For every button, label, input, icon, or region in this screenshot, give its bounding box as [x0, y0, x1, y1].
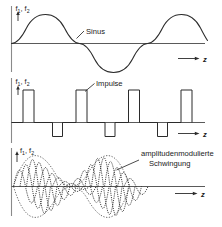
panel-am-z-label: z — [200, 190, 205, 199]
panel-sinus-z-label: z — [202, 55, 207, 64]
am-leader-line — [117, 160, 140, 170]
panel-am: f1, f2 — [12, 146, 214, 217]
panel-sinus-y-label: f1, f2 — [16, 4, 30, 14]
am-label-line1: amplitudenmodulierte — [141, 149, 214, 158]
panel-impulse-y-arrow — [16, 86, 20, 95]
panel-impulse-y-label: f1, f2 — [16, 77, 30, 87]
waveform-figure: f1, f2 Sinus z f1, f2 — [0, 0, 222, 227]
panel-sinus: f1, f2 Sinus z — [12, 4, 208, 73]
sine-leader-line — [77, 31, 85, 39]
pulse-train-curve — [12, 90, 193, 137]
am-label-line2: Schwingung — [149, 159, 190, 168]
panel-impulse-z-arrow — [178, 132, 200, 136]
panel-sinus-z-arrow — [178, 57, 200, 61]
panel-impulse: f1, f2 Impulse z — [12, 77, 208, 143]
panel-impulse-z-label: z — [202, 130, 207, 139]
panel-am-y-label: f1, f2 — [20, 146, 34, 156]
sine-label: Sinus — [86, 27, 105, 36]
impulse-label: Impulse — [96, 79, 123, 88]
panel-am-y-arrow — [15, 151, 19, 162]
panel-am-z-arrow — [175, 192, 198, 196]
impulse-leader-line — [85, 84, 95, 92]
